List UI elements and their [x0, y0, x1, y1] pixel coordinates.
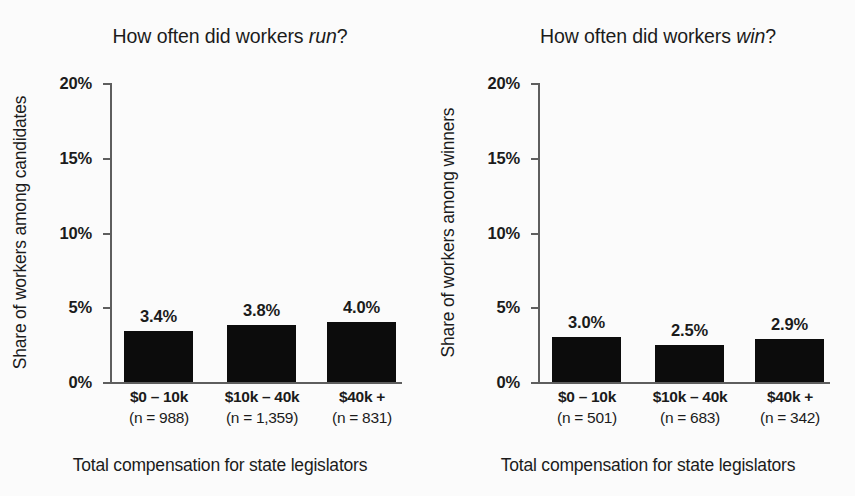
y-axis-line-win	[538, 83, 540, 382]
y-tick-20-win: 20%	[531, 83, 538, 85]
panel-title-win: How often did workers win?	[468, 24, 848, 48]
y-tick-label-20-win: 20%	[488, 74, 520, 93]
x-category-count-win-2: (n = 342)	[730, 407, 850, 428]
y-tick-15-win: 15%	[531, 158, 538, 160]
y-tick-15-run: 15%	[103, 158, 110, 160]
x-category-count-win-0: (n = 501)	[527, 407, 647, 428]
two-panel-bar-chart-figure: How often did workers run? Share of work…	[0, 0, 855, 496]
y-tick-label-10-win: 10%	[488, 223, 520, 242]
x-axis-title-run: Total compensation for state legislators	[20, 455, 420, 476]
x-category-count-run-0: (n = 988)	[99, 407, 219, 428]
panel-win: How often did workers win? Share of work…	[428, 0, 855, 496]
panel-run: How often did workers run? Share of work…	[0, 0, 427, 496]
panel-title-win-suffix: ?	[765, 25, 776, 47]
x-category-name-run-2: $40k +	[302, 386, 422, 407]
y-tick-5-run: 5%	[103, 307, 110, 309]
y-tick-label-5-win: 5%	[497, 298, 520, 317]
y-tick-label-5-run: 5%	[69, 298, 92, 317]
x-axis-line-run	[110, 382, 402, 384]
bar-value-win-0: 3.0%	[568, 313, 605, 332]
x-category-label-run-2: $40k + (n = 831)	[302, 386, 422, 428]
y-tick-5-win: 5%	[531, 307, 538, 309]
bar-value-run-1: 3.8%	[243, 301, 280, 320]
panel-title-win-emphasis: win	[736, 25, 765, 47]
y-tick-label-10-run: 10%	[60, 223, 92, 242]
bar-run-1: 3.8%	[227, 325, 296, 382]
y-tick-10-win: 10%	[531, 233, 538, 235]
bar-value-win-2: 2.9%	[771, 315, 808, 334]
y-axis-line-run	[110, 83, 112, 382]
bar-run-0: 3.4%	[124, 331, 193, 382]
y-tick-label-15-run: 15%	[60, 148, 92, 167]
x-category-name-run-0: $0 – 10k	[99, 386, 219, 407]
y-tick-label-15-win: 15%	[488, 148, 520, 167]
x-axis-line-win	[538, 382, 830, 384]
panel-title-run-prefix: How often did workers	[113, 25, 309, 47]
y-axis-title-win: Share of workers among winners	[436, 72, 462, 392]
x-category-count-run-2: (n = 831)	[302, 407, 422, 428]
plot-area-win: 20% 15% 10% 5% 0% 3.0% 2.5% 2.9%	[538, 83, 828, 382]
y-axis-title-run-text: Share of workers among candidates	[11, 95, 32, 369]
panel-title-run: How often did workers run?	[40, 24, 420, 48]
bar-win-0: 3.0%	[552, 337, 621, 382]
y-axis-title-run: Share of workers among candidates	[8, 72, 34, 392]
bar-win-1: 2.5%	[655, 345, 724, 382]
y-tick-20-run: 20%	[103, 83, 110, 85]
bar-value-run-0: 3.4%	[140, 307, 177, 326]
y-tick-label-0-win: 0%	[497, 373, 520, 392]
bar-value-run-2: 4.0%	[343, 298, 380, 317]
x-category-label-win-0: $0 – 10k (n = 501)	[527, 386, 647, 428]
plot-area-run: 20% 15% 10% 5% 0% 3.4% 3.8% 4.0%	[110, 83, 400, 382]
x-axis-title-win: Total compensation for state legislators	[448, 455, 848, 476]
panel-title-run-emphasis: run	[309, 25, 337, 47]
x-category-name-win-0: $0 – 10k	[527, 386, 647, 407]
x-category-label-win-2: $40k + (n = 342)	[730, 386, 850, 428]
y-tick-10-run: 10%	[103, 233, 110, 235]
x-category-label-run-0: $0 – 10k (n = 988)	[99, 386, 219, 428]
panel-title-win-prefix: How often did workers	[540, 25, 736, 47]
bar-value-win-1: 2.5%	[671, 321, 708, 340]
bar-run-2: 4.0%	[327, 322, 396, 382]
y-tick-0-run: 0%	[103, 382, 110, 384]
bar-win-2: 2.9%	[755, 339, 824, 382]
y-tick-label-20-run: 20%	[60, 74, 92, 93]
x-category-name-win-2: $40k +	[730, 386, 850, 407]
y-axis-title-win-text: Share of workers among winners	[439, 107, 460, 357]
panel-title-run-suffix: ?	[337, 25, 348, 47]
y-tick-0-win: 0%	[531, 382, 538, 384]
y-tick-label-0-run: 0%	[69, 373, 92, 392]
